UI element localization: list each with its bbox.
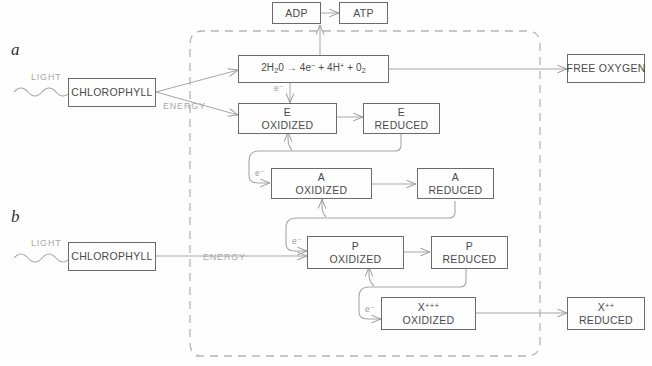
free-oxygen-box[interactable]: FREE OXYGEN (567, 54, 645, 83)
x2-reduced-symbol: X++ (598, 301, 615, 314)
light-label-b: LIGHT (31, 238, 62, 248)
energy-a-to-water (156, 70, 238, 92)
x3-oxidized-state: OXIDIZED (403, 314, 455, 327)
panel-label-b: b (11, 207, 20, 227)
water-splitting-equation: 2H20 → 4e− + 4H+ + 02 (261, 62, 366, 75)
light-label-a: LIGHT (31, 72, 62, 82)
p-reduced-box[interactable]: P REDUCED (431, 236, 508, 269)
photosynthesis-diagram: a b LIGHT LIGHT ENERGY ENERGY e⁻ e⁻ e⁻ e… (0, 0, 652, 366)
e-oxidized-symbol: E (284, 106, 291, 119)
panel-label-a: a (11, 40, 20, 60)
a-oxidized-state: OXIDIZED (296, 184, 348, 197)
atp-label: ATP (353, 7, 374, 20)
e-reduced-box[interactable]: E REDUCED (363, 103, 440, 134)
energy-label-b: ENERGY (203, 252, 246, 262)
electron-label-water: e⁻ (274, 83, 284, 93)
chlorophyll-b-label: CHLOROPHYLL (71, 250, 153, 263)
x2-reduced-state: REDUCED (579, 314, 633, 327)
adp-label: ADP (285, 7, 308, 20)
p-reduced-state: REDUCED (442, 253, 496, 266)
p-reduced-symbol: P (466, 240, 473, 253)
energy-label-a: ENERGY (163, 101, 206, 111)
electron-label-a: e⁻ (255, 168, 265, 178)
e-oxidized-cycle-branch (288, 132, 292, 150)
free-oxygen-label: FREE OXYGEN (566, 62, 645, 75)
a-oxidized-box[interactable]: A OXIDIZED (271, 168, 372, 199)
a-oxidized-symbol: A (318, 171, 325, 184)
water-splitting-box[interactable]: 2H20 → 4e− + 4H+ + 02 (238, 55, 389, 83)
electron-label-p: e⁻ (292, 236, 302, 246)
a-oxidized-cycle-branch (322, 199, 326, 217)
e-oxidized-state: OXIDIZED (262, 119, 314, 132)
e-oxidized-box[interactable]: E OXIDIZED (238, 103, 337, 134)
electron-label-x: e⁻ (365, 304, 375, 314)
p-oxidized-cycle-branch (369, 267, 374, 286)
chlorophyll-a-box[interactable]: CHLOROPHYLL (68, 78, 156, 107)
x2-reduced-box[interactable]: X++ REDUCED (567, 297, 645, 330)
p-oxidized-symbol: P (352, 240, 359, 253)
chlorophyll-a-label: CHLOROPHYLL (71, 86, 153, 99)
e-reduced-symbol: E (398, 106, 405, 119)
x3-oxidized-box[interactable]: X+++ OXIDIZED (381, 297, 476, 330)
a-reduced-symbol: A (452, 171, 459, 184)
p-oxidized-state: OXIDIZED (330, 253, 382, 266)
a-reduced-state: REDUCED (428, 184, 482, 197)
atp-box[interactable]: ATP (339, 2, 388, 24)
adp-box[interactable]: ADP (272, 2, 321, 24)
p-oxidized-box[interactable]: P OXIDIZED (307, 236, 404, 269)
a-reduced-box[interactable]: A REDUCED (417, 168, 494, 199)
chlorophyll-b-box[interactable]: CHLOROPHYLL (68, 242, 156, 271)
x3-oxidized-symbol: X+++ (418, 301, 439, 314)
e-reduced-state: REDUCED (374, 119, 428, 132)
